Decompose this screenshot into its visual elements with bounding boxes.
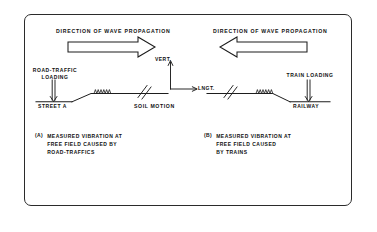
break-slash-left-1 [138, 86, 147, 98]
caption-b-text: MEASURED VIBRATION AT FREE FIELD CAUSED … [216, 132, 291, 156]
street-a-label: STREET A [38, 103, 67, 110]
ground-profile-left [72, 94, 129, 102]
ground-profile-right [246, 94, 290, 102]
measurement-hatch-right [256, 90, 273, 94]
caption-a: (a) MEASURED VIBRATION AT FREE FIELD CAU… [35, 132, 122, 156]
caption-a-marker: (a) [35, 132, 43, 139]
caption-b: (b) MEASURED VIBRATION AT FREE FIELD CAU… [204, 132, 291, 156]
railway-label: RAILWAY [293, 103, 319, 110]
soil-motion-label: SOIL MOTION [134, 103, 175, 110]
measurement-hatch-left [94, 90, 111, 94]
train-loading-label: TRAIN LOADING [284, 72, 336, 79]
caption-a-text: MEASURED VIBRATION AT FREE FIELD CAUSED … [47, 132, 122, 156]
wave-direction-arrow-right [68, 37, 155, 57]
panel-a-heading: DIRECTION OF WAVE PROPAGATION [56, 28, 171, 35]
caption-b-marker: (b) [204, 132, 212, 139]
break-slash-right-1 [224, 86, 233, 98]
axis-longitudinal-label: LNGT. [198, 85, 215, 92]
panel-b-heading: DIRECTION OF WAVE PROPAGATION [213, 28, 328, 35]
road-traffic-loading-label: ROAD-TRAFFIC LOADING [30, 67, 80, 81]
train-load-arrow-head [305, 97, 312, 102]
figure-root: DIRECTION OF WAVE PROPAGATION DIRECTION … [0, 0, 377, 232]
wave-direction-arrow-left [220, 37, 307, 57]
axis-vertical-label: VERT. [155, 56, 171, 63]
road-load-arrow-head [50, 97, 57, 102]
